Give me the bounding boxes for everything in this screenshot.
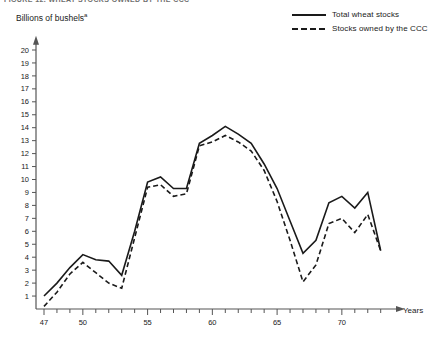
y-tick-label: 15 [21, 110, 29, 119]
y-tick-label: 6 [25, 227, 29, 236]
x-tick-label: 70 [338, 318, 346, 327]
x-tick-label: 65 [273, 318, 281, 327]
x-tick-label: 50 [79, 318, 87, 327]
y-tick-label: 16 [21, 97, 29, 106]
chart-plot-area: 2019181716151413121110987654321475055606… [0, 0, 435, 342]
x-tick-label: 47 [40, 318, 48, 327]
y-tick-label: 20 [21, 46, 29, 55]
data-series-line-total-wheat-stocks [44, 126, 381, 296]
y-tick-label: 10 [21, 175, 29, 184]
y-tick-label: 3 [25, 266, 29, 275]
data-series-line-ccc-stocks [44, 135, 381, 306]
x-tick-label: 60 [208, 318, 216, 327]
y-tick-label: 19 [21, 59, 29, 68]
figure-container: FIGURE 12. WHEAT STOCKS OWNED BY THE CCC… [0, 0, 435, 342]
y-tick-label: 5 [25, 240, 29, 249]
y-tick-label: 17 [21, 84, 29, 93]
y-tick-label: 8 [25, 201, 29, 210]
y-tick-label: 11 [21, 162, 29, 171]
y-tick-label: 4 [25, 253, 29, 262]
y-tick-label: 18 [21, 72, 29, 81]
y-tick-label: 12 [21, 149, 29, 158]
x-axis-arrow-icon [396, 306, 405, 312]
y-tick-label: 9 [25, 188, 29, 197]
y-tick-label: 1 [25, 292, 29, 301]
x-tick-label: 55 [143, 318, 151, 327]
y-tick-label: 13 [21, 136, 29, 145]
y-tick-label: 7 [25, 214, 29, 223]
y-axis-arrow-icon [33, 36, 39, 45]
y-tick-label: 2 [25, 279, 29, 288]
y-tick-label: 14 [21, 123, 29, 132]
